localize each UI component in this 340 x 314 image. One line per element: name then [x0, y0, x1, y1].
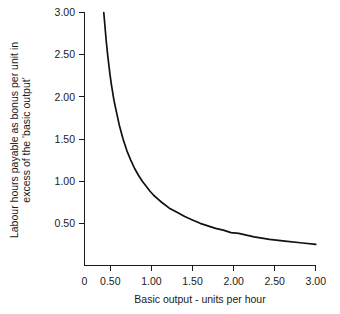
y-tick-label: 2.50: [55, 48, 76, 60]
y-tick-label: 0.50: [55, 217, 76, 229]
x-axis-title: Basic output - units per hour: [134, 293, 266, 305]
y-tick-label: 1.50: [55, 133, 76, 145]
x-tick-label: 1.00: [141, 275, 162, 287]
x-tick-label: 0: [82, 275, 88, 287]
chart-background: [0, 0, 340, 314]
chart-svg: 3.00 2.50 2.00 1.50 1.00 0.50 0 0.50 1.0…: [0, 0, 340, 314]
y-tick-label: 3.00: [55, 6, 76, 18]
x-tick-label: 1.50: [182, 275, 203, 287]
y-tick-label: 1.00: [55, 175, 76, 187]
chart-figure: 3.00 2.50 2.00 1.50 1.00 0.50 0 0.50 1.0…: [0, 0, 340, 314]
x-tick-label: 2.50: [264, 275, 285, 287]
y-tick-label: 2.00: [55, 91, 76, 103]
x-tick-label: 3.00: [306, 275, 327, 287]
y-axis-title-line1: Labour hours payable as bonus per unit i…: [8, 42, 20, 238]
x-tick-label: 2.00: [223, 275, 244, 287]
x-tick-label: 0.50: [100, 275, 121, 287]
y-axis-title-line2: excess of the 'basic output': [20, 77, 32, 202]
